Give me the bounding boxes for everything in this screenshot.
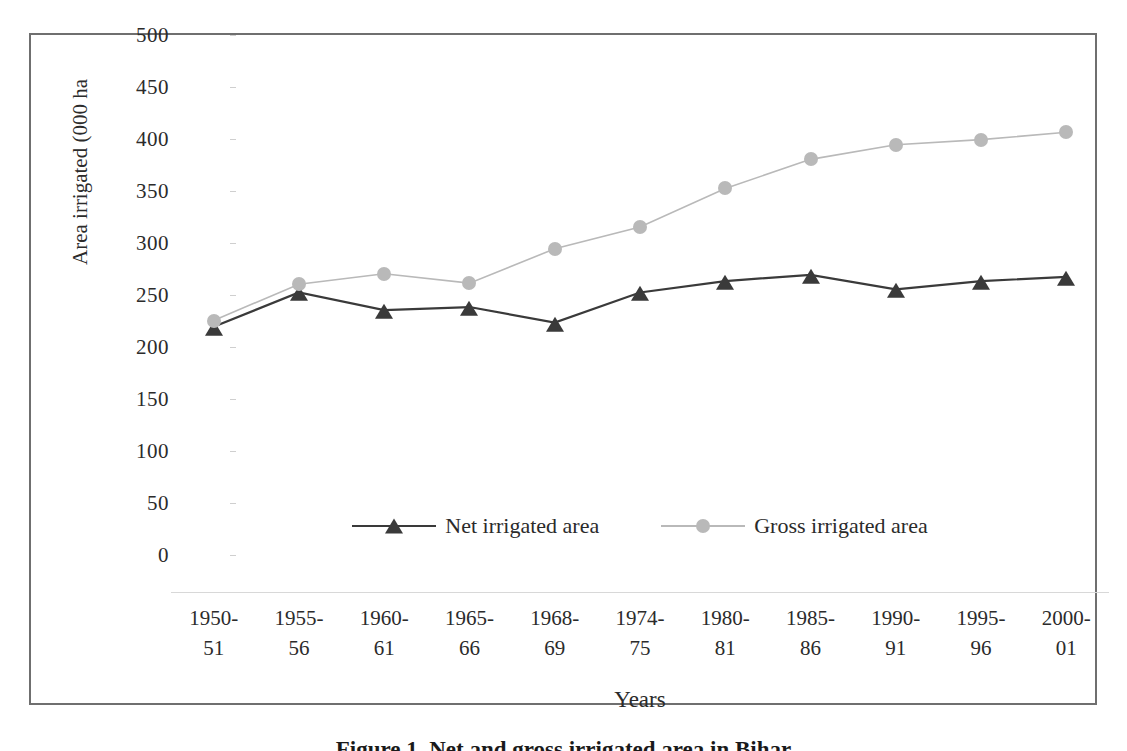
x-tick-label: 1995-96 xyxy=(938,603,1023,678)
circle-marker xyxy=(804,152,818,166)
data-point-marker xyxy=(718,181,732,195)
data-point-marker xyxy=(546,316,564,331)
data-point-marker xyxy=(377,267,391,281)
circle-marker xyxy=(462,276,476,290)
x-tick-label: 1955-56 xyxy=(256,603,341,678)
y-tick-label: 0 xyxy=(158,543,169,568)
y-tick-label: 250 xyxy=(136,283,169,308)
figure-caption: Figure 1. Net and gross irrigated area i… xyxy=(0,737,1127,751)
data-point-marker xyxy=(375,304,393,319)
circle-marker xyxy=(292,277,306,291)
data-point-marker xyxy=(207,314,221,328)
circle-marker xyxy=(718,181,732,195)
x-tick-label: 1960-61 xyxy=(342,603,427,678)
circle-marker xyxy=(633,220,647,234)
triangle-marker xyxy=(716,275,734,290)
circle-marker xyxy=(1059,125,1073,139)
x-tick-label: 1980-81 xyxy=(683,603,768,678)
triangle-marker xyxy=(631,286,649,301)
y-tick-label: 200 xyxy=(136,335,169,360)
plot-canvas xyxy=(171,72,1109,592)
data-point-marker xyxy=(974,133,988,147)
triangle-marker xyxy=(972,275,990,290)
x-axis-title: Years xyxy=(171,687,1109,713)
circle-marker xyxy=(377,267,391,281)
data-point-marker xyxy=(633,220,647,234)
triangle-marker xyxy=(802,268,820,283)
data-point-marker xyxy=(889,138,903,152)
data-point-marker xyxy=(1059,125,1073,139)
x-tick-label: 1950-51 xyxy=(171,603,256,678)
data-point-marker xyxy=(292,277,306,291)
data-point-marker xyxy=(460,301,478,316)
x-tick-label: 1968-69 xyxy=(512,603,597,678)
y-tick-label: 350 xyxy=(136,179,169,204)
triangle-marker xyxy=(887,283,905,298)
x-tick-label: 1990-91 xyxy=(853,603,938,678)
plot-area xyxy=(171,72,1109,592)
y-axis-title: Area irrigated (000 ha xyxy=(68,79,93,265)
y-tick-label: 100 xyxy=(136,439,169,464)
x-tick-label: 1974-75 xyxy=(597,603,682,678)
figure-page: Area irrigated (000 ha 50045040035030025… xyxy=(0,0,1127,751)
triangle-marker xyxy=(375,304,393,319)
y-tick-label: 150 xyxy=(136,387,169,412)
triangle-marker xyxy=(546,316,564,331)
triangle-marker xyxy=(460,301,478,316)
figure-border: Area irrigated (000 ha 50045040035030025… xyxy=(29,33,1097,705)
y-tick-mark xyxy=(230,35,236,36)
y-axis-ticks: 500450400350300250200150100500 xyxy=(91,35,169,555)
data-point-marker xyxy=(802,268,820,283)
circle-marker xyxy=(974,133,988,147)
data-point-marker xyxy=(1057,271,1075,286)
data-point-marker xyxy=(887,283,905,298)
data-point-marker xyxy=(804,152,818,166)
x-tick-label: 1965-66 xyxy=(427,603,512,678)
x-tick-label: 2000-01 xyxy=(1024,603,1109,678)
y-tick-label: 500 xyxy=(136,23,169,48)
y-tick-label: 450 xyxy=(136,75,169,100)
data-point-marker xyxy=(548,242,562,256)
series-lines xyxy=(171,72,1109,592)
y-tick-label: 400 xyxy=(136,127,169,152)
circle-marker xyxy=(207,314,221,328)
circle-marker xyxy=(548,242,562,256)
data-point-marker xyxy=(972,275,990,290)
triangle-marker xyxy=(1057,271,1075,286)
x-axis-ticks: 1950-511955-561960-611965-661968-691974-… xyxy=(171,603,1109,678)
data-point-marker xyxy=(716,275,734,290)
y-tick-label: 300 xyxy=(136,231,169,256)
circle-marker xyxy=(889,138,903,152)
data-point-marker xyxy=(462,276,476,290)
data-point-marker xyxy=(631,286,649,301)
x-tick-label: 1985-86 xyxy=(768,603,853,678)
x-axis-line xyxy=(171,592,1109,593)
y-tick-label: 50 xyxy=(147,491,169,516)
